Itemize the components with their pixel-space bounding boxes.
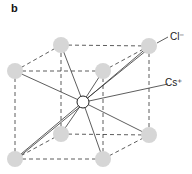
anion-bottom-front-left <box>7 151 23 167</box>
anion-leader-line <box>157 37 168 43</box>
cation-center <box>77 96 89 108</box>
cation-label: Cs⁺ <box>165 77 182 88</box>
anion-top-back-left <box>53 37 69 53</box>
anion-top-back-right <box>141 38 157 54</box>
anion-top-front-left <box>7 63 23 79</box>
anion-bottom-front-right <box>95 151 111 167</box>
anion-top-front-right <box>95 63 111 79</box>
anion-bottom-back-left <box>53 126 69 142</box>
anion-label: Cl⁻ <box>170 31 184 42</box>
anion-bottom-back-right <box>141 127 157 143</box>
cscl-unit-cell-diagram: Cl⁻ Cs⁺ <box>0 0 192 174</box>
